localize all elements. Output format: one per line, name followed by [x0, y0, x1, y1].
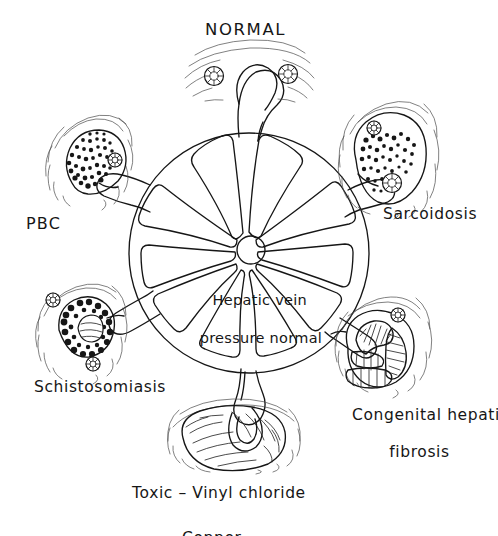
portal-tract-icon [86, 357, 100, 371]
label-normal: NORMAL [205, 20, 286, 39]
hepatic-lobule-icon [97, 70, 395, 425]
portal-tract-icon [391, 308, 405, 322]
label-pbc: PBC [26, 215, 61, 234]
node-normal[interactable] [185, 40, 314, 110]
portal-stems [97, 70, 395, 425]
label-toxic-group: Toxic – Vinyl chloride Copper Arsenic [110, 460, 306, 536]
portal-tract-icon [108, 153, 122, 167]
fibrous-strands [186, 412, 280, 466]
portal-tract-icon [383, 174, 402, 193]
label-hepatic-vein-pressure: Hepatic vein pressure normal [180, 272, 320, 368]
portal-tract-icon [279, 65, 298, 84]
node-pbc[interactable] [46, 115, 133, 210]
label-chf-line2: fibrosis [330, 443, 498, 461]
portal-tract-icon [205, 67, 224, 86]
label-chf-line1: Congenital hepatic [352, 406, 498, 424]
label-sarcoidosis: Sarcoidosis [383, 205, 477, 223]
center-line1: Hepatic vein [213, 292, 308, 308]
toxic-line1: Toxic – Vinyl chloride [132, 484, 306, 502]
node-schistosomiasis[interactable] [36, 284, 128, 384]
label-congenital-hepatic-fibrosis: Congenital hepatic fibrosis [330, 388, 498, 498]
portal-tract-icon [46, 293, 60, 307]
toxic-line2: Copper [110, 527, 306, 536]
label-schistosomiasis: Schistosomiasis [34, 378, 166, 396]
portal-tract-icon [367, 121, 381, 135]
center-line2: pressure normal [200, 330, 323, 346]
diagram-canvas: .ln{fill:none;stroke:#161616;stroke-widt… [0, 0, 498, 536]
